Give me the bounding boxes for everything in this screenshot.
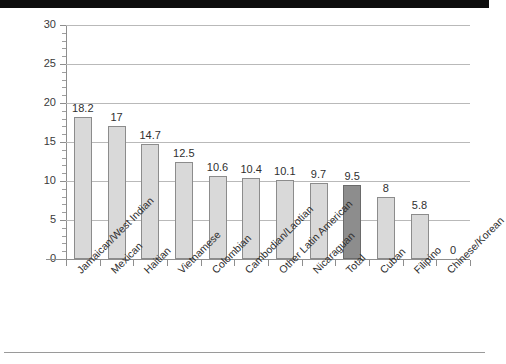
gridline (66, 103, 470, 104)
y-axis-minor-tick (62, 243, 66, 244)
x-axis-tick (133, 260, 134, 266)
bar-value-label: 5.8 (400, 200, 440, 211)
gridline (66, 25, 470, 26)
y-axis-tick (60, 25, 66, 26)
y-axis-tick-label: 5 (22, 214, 56, 225)
y-axis-tick-label: 10 (22, 175, 56, 186)
bar-value-label: 8 (366, 183, 406, 194)
bar-value-label: 14.7 (130, 130, 170, 141)
y-axis-tick-label: 20 (22, 97, 56, 108)
bottom-divider-rule (4, 352, 485, 353)
x-axis-tick (100, 260, 101, 266)
bar-cuban (377, 197, 395, 259)
x-axis-tick (201, 260, 202, 266)
x-axis-tick (403, 260, 404, 266)
x-axis-tick (302, 260, 303, 266)
y-axis-minor-tick (62, 119, 66, 120)
y-axis-minor-tick (62, 158, 66, 159)
y-axis-minor-tick (62, 150, 66, 151)
y-axis-minor-tick (62, 134, 66, 135)
y-axis-minor-tick (62, 197, 66, 198)
y-axis-tick (60, 181, 66, 182)
x-axis-tick (66, 260, 67, 266)
bar-value-label: 17 (97, 112, 137, 123)
gridline (66, 181, 470, 182)
x-axis-tick (335, 260, 336, 266)
x-axis-tick (470, 260, 471, 266)
y-axis-minor-tick (62, 165, 66, 166)
y-axis-minor-tick (62, 87, 66, 88)
y-axis-minor-tick (62, 173, 66, 174)
bar-jamaican-west-indian (74, 117, 92, 259)
y-axis-minor-tick (62, 95, 66, 96)
y-axis-minor-tick (62, 189, 66, 190)
y-axis-minor-tick (62, 228, 66, 229)
y-axis-minor-tick (62, 251, 66, 252)
bar-vietnamese (175, 162, 193, 260)
y-axis-minor-tick (62, 126, 66, 127)
y-axis-tick-label: 30 (22, 19, 56, 30)
top-black-band (0, 0, 489, 8)
y-axis-tick (60, 64, 66, 65)
bar-value-label: 9.5 (332, 171, 372, 182)
x-axis-tick (436, 260, 437, 266)
y-axis-tick-label: 15 (22, 136, 56, 147)
bar-value-label: 12.5 (164, 148, 204, 159)
y-axis-tick-labels: 051015202530 (20, 0, 56, 364)
y-axis-tick (60, 142, 66, 143)
y-axis-minor-tick (62, 33, 66, 34)
y-axis-minor-tick (62, 204, 66, 205)
y-axis-minor-tick (62, 212, 66, 213)
y-axis-minor-tick (62, 48, 66, 49)
gridline (66, 142, 470, 143)
y-axis-minor-tick (62, 56, 66, 57)
y-axis-minor-tick (62, 236, 66, 237)
x-axis-tick (167, 260, 168, 266)
gridline (66, 64, 470, 65)
x-axis-tick (234, 260, 235, 266)
y-axis-minor-tick (62, 72, 66, 73)
y-axis-minor-tick (62, 80, 66, 81)
x-axis-tick (369, 260, 370, 266)
y-axis-minor-tick (62, 41, 66, 42)
y-axis-tick-label: 25 (22, 58, 56, 69)
x-axis-tick (268, 260, 269, 266)
y-axis-tick (60, 220, 66, 221)
